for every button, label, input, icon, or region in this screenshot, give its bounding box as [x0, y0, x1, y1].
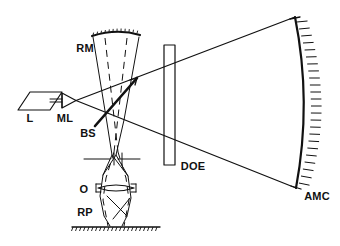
reference-mirror: [92, 29, 140, 37]
label-aspheric-mirror: AMC: [304, 190, 330, 202]
reference-arm-beam: [93, 37, 139, 226]
microscope-lens: [62, 93, 76, 108]
optics-schematic-canvas: L ML BS RM DOE O RP AMC: [0, 0, 340, 246]
laser-source: [18, 92, 62, 110]
reference-plane: [72, 227, 161, 231]
label-microscope-lens: ML: [57, 112, 73, 124]
label-laser: L: [27, 112, 34, 124]
label-objective: O: [80, 183, 89, 195]
label-doe: DOE: [181, 160, 205, 172]
optical-diagram: L ML BS RM DOE O RP AMC: [0, 0, 340, 246]
label-beam-splitter: BS: [80, 127, 96, 139]
optical-axis-dashed: [103, 38, 129, 226]
aspheric-mirror: [290, 17, 322, 189]
label-reference-plane: RP: [77, 206, 93, 218]
label-reference-mirror: RM: [76, 42, 94, 54]
